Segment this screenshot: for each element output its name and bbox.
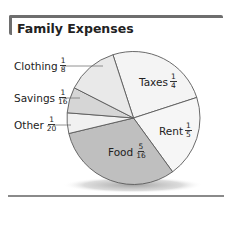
label-savings: Savings 1 16 bbox=[14, 89, 69, 106]
label-clothing-name: Clothing bbox=[14, 60, 58, 72]
fraction-savings: 1 16 bbox=[57, 89, 69, 106]
label-savings-name: Savings bbox=[14, 92, 55, 104]
label-other-name: Other bbox=[14, 119, 44, 131]
bottom-rule bbox=[8, 195, 224, 197]
fraction-taxes: 1 4 bbox=[170, 73, 177, 90]
label-rent-name: Rent bbox=[159, 125, 183, 137]
fraction-other: 1 20 bbox=[46, 116, 58, 133]
label-rent: Rent 1 5 bbox=[159, 122, 192, 139]
label-taxes-name: Taxes bbox=[139, 76, 168, 88]
fraction-clothing: 1 8 bbox=[60, 57, 67, 74]
label-other: Other 1 20 bbox=[14, 116, 57, 133]
label-food: Food 5 16 bbox=[108, 143, 147, 160]
label-taxes: Taxes 1 4 bbox=[139, 73, 177, 90]
fraction-food: 5 16 bbox=[135, 143, 147, 160]
pie-slices bbox=[67, 51, 200, 184]
label-clothing: Clothing 1 8 bbox=[14, 57, 66, 74]
label-food-name: Food bbox=[108, 146, 133, 158]
fraction-rent: 1 5 bbox=[185, 122, 192, 139]
